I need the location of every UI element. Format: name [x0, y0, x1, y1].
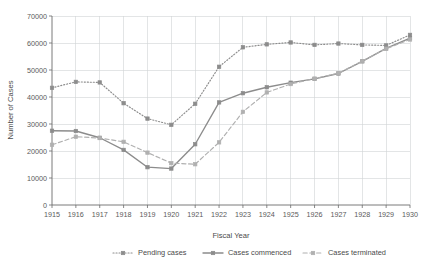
data-point-marker — [50, 143, 53, 146]
data-point-marker — [170, 123, 173, 126]
legend-label: Cases terminated — [328, 248, 386, 257]
y-tick-label: 40000 — [27, 93, 47, 102]
data-point-marker — [313, 77, 316, 80]
data-point-marker — [217, 141, 220, 144]
y-axis-title: Number of Cases — [6, 80, 15, 139]
x-tick-label: 1920 — [163, 210, 179, 219]
x-tick-label: 1918 — [116, 210, 132, 219]
data-point-marker — [289, 41, 292, 44]
legend-item-cases-terminated[interactable]: Cases terminated — [303, 248, 386, 257]
legend-swatch-marker — [211, 251, 214, 254]
data-point-marker — [241, 92, 244, 95]
data-point-marker — [146, 166, 149, 169]
data-point-marker — [337, 72, 340, 75]
data-point-marker — [98, 136, 101, 139]
data-point-marker — [122, 140, 125, 143]
y-tick-label: 30000 — [27, 120, 47, 129]
data-point-marker — [146, 117, 149, 120]
x-tick-label: 1925 — [283, 210, 299, 219]
data-point-marker — [122, 102, 125, 105]
data-point-marker — [217, 101, 220, 104]
data-point-marker — [217, 65, 220, 68]
data-point-marker — [384, 47, 387, 50]
legend-swatch-marker — [311, 251, 314, 254]
legend-item-pending-cases[interactable]: Pending cases — [113, 248, 187, 257]
data-point-marker — [50, 129, 53, 132]
x-axis-ticks: 1915191619171918191919201921192219231924… — [44, 205, 418, 219]
data-point-marker — [408, 38, 411, 41]
x-axis-title: Fiscal Year — [212, 231, 250, 240]
chart-container: 010000200003000040000500006000070000 191… — [0, 0, 427, 268]
chart-legend: Pending casesCases commencedCases termin… — [113, 248, 386, 257]
data-point-marker — [361, 59, 364, 62]
data-point-marker — [265, 86, 268, 89]
data-point-marker — [74, 129, 77, 132]
legend-swatch-marker — [121, 251, 124, 254]
data-point-marker — [74, 135, 77, 138]
x-tick-label: 1922 — [211, 210, 227, 219]
data-point-marker — [122, 148, 125, 151]
x-tick-label: 1924 — [259, 210, 275, 219]
y-tick-label: 10000 — [27, 174, 47, 183]
data-point-marker — [146, 151, 149, 154]
data-point-marker — [241, 46, 244, 49]
legend-label: Pending cases — [138, 248, 187, 257]
x-tick-label: 1915 — [44, 210, 60, 219]
legend-label: Cases commenced — [228, 248, 291, 257]
data-point-marker — [361, 43, 364, 46]
series-line — [52, 39, 410, 164]
x-tick-label: 1921 — [187, 210, 203, 219]
x-tick-label: 1927 — [330, 210, 346, 219]
x-tick-label: 1928 — [354, 210, 370, 219]
x-tick-label: 1926 — [307, 210, 323, 219]
line-chart: 010000200003000040000500006000070000 191… — [0, 0, 427, 268]
y-tick-label: 0 — [43, 201, 47, 210]
data-point-marker — [337, 42, 340, 45]
series-group — [50, 33, 411, 170]
x-tick-label: 1916 — [68, 210, 84, 219]
data-point-marker — [313, 43, 316, 46]
series-pending-cases — [50, 33, 411, 126]
data-point-marker — [50, 86, 53, 89]
data-point-marker — [265, 91, 268, 94]
series-line — [52, 38, 410, 168]
data-point-marker — [194, 143, 197, 146]
x-tick-label: 1919 — [139, 210, 155, 219]
data-point-marker — [241, 110, 244, 113]
x-tick-label: 1929 — [378, 210, 394, 219]
series-line — [52, 35, 410, 125]
data-point-marker — [265, 43, 268, 46]
legend-item-cases-commenced[interactable]: Cases commenced — [203, 248, 291, 257]
data-point-marker — [194, 163, 197, 166]
y-axis-ticks: 010000200003000040000500006000070000 — [27, 12, 52, 210]
x-tick-label: 1917 — [92, 210, 108, 219]
data-point-marker — [289, 82, 292, 85]
data-point-marker — [74, 80, 77, 83]
data-point-marker — [98, 81, 101, 84]
data-point-marker — [170, 167, 173, 170]
y-tick-label: 50000 — [27, 66, 47, 75]
y-tick-label: 70000 — [27, 12, 47, 21]
x-tick-label: 1930 — [402, 210, 418, 219]
y-tick-label: 60000 — [27, 39, 47, 48]
data-point-marker — [170, 161, 173, 164]
y-tick-label: 20000 — [27, 147, 47, 156]
data-point-marker — [194, 102, 197, 105]
x-tick-label: 1923 — [235, 210, 251, 219]
